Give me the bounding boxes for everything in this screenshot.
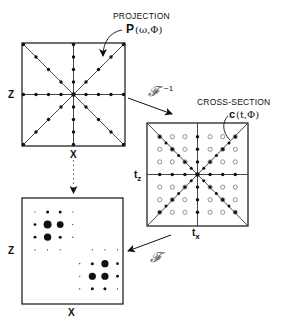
projection-function-args: (ω,Φ) — [135, 24, 162, 35]
inverse-fourier-exponent: −1 — [164, 84, 174, 93]
object-frame — [22, 198, 123, 304]
cross-section-panel: tz tx — [134, 123, 248, 241]
forward-fourier-symbol: 𝓕 — [150, 249, 165, 265]
cross-section-title: CROSS-SECTION — [197, 97, 270, 107]
object-pixels — [34, 211, 119, 291]
cross-section-tz-label: tz — [134, 169, 141, 183]
cross-section-tx-label: tx — [192, 227, 200, 241]
cross-section-function-name: c — [229, 108, 235, 120]
object-z-label: z — [8, 245, 14, 256]
inverse-fourier-arrow — [128, 98, 172, 114]
projection-x-label: x — [70, 149, 77, 160]
projection-panel: z x — [8, 43, 125, 160]
object-x-label: x — [68, 307, 75, 318]
inverse-fourier-symbol: 𝓕 — [148, 83, 163, 99]
projection-function-name: P — [126, 22, 134, 36]
projection-title: PROJECTION — [113, 11, 170, 21]
object-panel: z x — [8, 198, 123, 318]
cross-section-function-args: (t,Φ) — [236, 109, 259, 120]
projection-z-label: z — [8, 89, 14, 100]
diagram-canvas: z x PROJECTION P (ω,Φ) 𝓕 −1 tz tx CROSS-… — [0, 0, 284, 326]
